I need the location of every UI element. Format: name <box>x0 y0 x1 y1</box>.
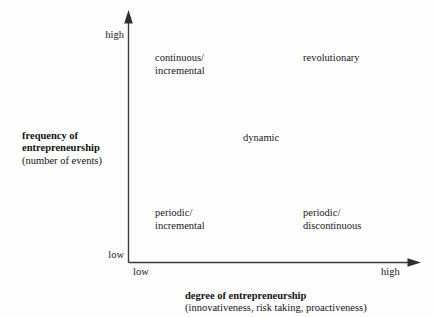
quadrant-label-center-line1: dynamic <box>243 132 279 145</box>
quadrant-label-top-right: revolutionary <box>303 52 360 65</box>
y-axis-caption-sub: (number of events) <box>22 155 102 167</box>
y-axis-arrowhead <box>124 10 133 24</box>
x-axis-caption-sub: (innovativeness, risk taking, proactiven… <box>185 302 367 314</box>
y-axis-caption: frequency of entrepreneurship (number of… <box>22 130 102 167</box>
quadrant-label-top-left-line2: incremental <box>155 65 205 78</box>
quadrant-label-bottom-left-line1: periodic/ <box>155 207 205 220</box>
x-axis-caption: degree of entrepreneurship (innovativene… <box>185 290 367 315</box>
y-axis-caption-line1: frequency of <box>22 130 102 142</box>
quadrant-label-bottom-right-line1: periodic/ <box>303 207 361 220</box>
quadrant-label-bottom-left: periodic/ incremental <box>155 207 205 232</box>
x-axis-caption-main: degree of entrepreneurship <box>185 290 367 302</box>
quadrant-label-center: dynamic <box>243 132 279 145</box>
quadrant-label-bottom-left-line2: incremental <box>155 220 205 233</box>
y-axis-caption-line2: entrepreneurship <box>22 142 102 154</box>
x-axis-arrowhead <box>408 258 422 267</box>
x-axis-tick-low: low <box>133 266 149 278</box>
y-axis-tick-low: low <box>108 249 124 261</box>
quadrant-label-top-right-line1: revolutionary <box>303 52 360 65</box>
y-axis-tick-high: high <box>105 29 124 41</box>
quadrant-label-bottom-right: periodic/ discontinuous <box>303 207 361 232</box>
quadrant-label-bottom-right-line2: discontinuous <box>303 220 361 233</box>
entrepreneurship-quadrant-diagram: high low low high frequency of entrepren… <box>0 0 435 317</box>
quadrant-label-top-left: continuous/ incremental <box>155 52 205 77</box>
quadrant-label-top-left-line1: continuous/ <box>155 52 205 65</box>
x-axis-tick-high: high <box>381 266 400 278</box>
